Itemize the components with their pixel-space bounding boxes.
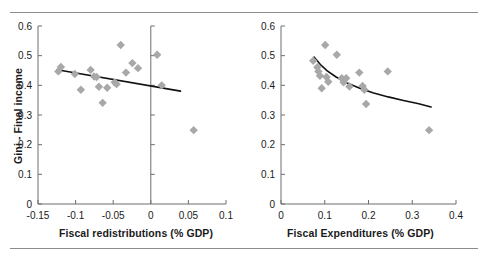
x-tick-label: 0 (148, 210, 154, 221)
x-tick-label: 0.2 (362, 210, 376, 221)
y-axis-label-left: Gini - Final income (12, 46, 24, 186)
data-point-marker (333, 51, 341, 59)
x-tick-label: -0.05 (102, 210, 125, 221)
y-tick-label: 0 (269, 199, 275, 210)
y-tick-label: 0.4 (261, 80, 275, 91)
x-axis-label-right: Fiscal Expenditures (% GDP) (242, 227, 479, 239)
data-point-marker (384, 67, 392, 75)
data-point-marker (122, 68, 130, 76)
x-tick-label: 0.05 (179, 210, 199, 221)
x-tick-label: 0.1 (219, 210, 233, 221)
x-tick-label: -0.15 (27, 210, 50, 221)
data-point-marker (98, 99, 106, 107)
x-tick-label: 0.4 (449, 210, 463, 221)
figure-bottom-rule (10, 248, 478, 249)
y-tick-label: 0.3 (261, 110, 275, 121)
figure-top-rule (10, 12, 478, 13)
chart-panel-right: 00.10.20.30.40.50.600.10.20.30.4 Fiscal … (248, 14, 485, 246)
y-tick-label: 0.6 (261, 21, 275, 32)
x-tick-label: 0.3 (405, 210, 419, 221)
data-point-marker (189, 126, 197, 134)
data-point-marker (134, 64, 142, 72)
data-point-marker (103, 84, 111, 92)
data-point-marker (321, 41, 329, 49)
data-point-marker (95, 83, 103, 91)
scatter-plot-left: 00.10.20.30.40.50.6-0.15-0.1-0.0500.050.… (0, 14, 248, 246)
x-tick-label: 0.1 (318, 210, 332, 221)
y-tick-label: 0.5 (261, 50, 275, 61)
data-point-marker (355, 68, 363, 76)
scatter-plot-right: 00.10.20.30.40.50.600.10.20.30.4 (248, 14, 485, 246)
data-point-marker (71, 70, 79, 78)
data-point-marker (77, 86, 85, 94)
data-point-marker (128, 59, 136, 67)
chart-panel-left: 00.10.20.30.40.50.6-0.15-0.1-0.0500.050.… (0, 14, 248, 246)
data-point-marker (425, 126, 433, 134)
x-tick-label: 0 (278, 210, 284, 221)
y-tick-label: 0.6 (18, 21, 32, 32)
x-axis-label-left: Fiscal redistributions (% GDP) (12, 227, 260, 239)
data-point-marker (362, 100, 370, 108)
data-point-marker (153, 51, 161, 59)
figure-container: 00.10.20.30.40.50.6-0.15-0.1-0.0500.050.… (0, 0, 485, 260)
data-point-marker (317, 84, 325, 92)
data-point-marker (309, 57, 317, 65)
y-tick-label: 0.2 (261, 139, 275, 150)
data-point-marker (117, 41, 125, 49)
y-tick-label: 0.1 (261, 169, 275, 180)
y-tick-label: 0 (26, 199, 32, 210)
x-tick-label: -0.1 (67, 210, 85, 221)
